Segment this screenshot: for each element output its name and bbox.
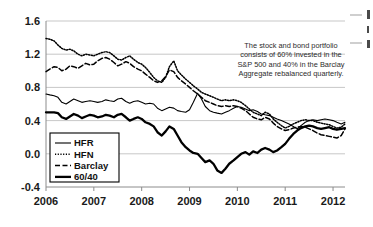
annotation-line-2: consists of 60% invested in the	[240, 50, 341, 59]
legend-label-Barclay: Barclay	[74, 160, 109, 171]
annotation-line-4: Aggregate rebalanced quarterly.	[238, 69, 343, 78]
annotation-line-1: The stock and bond portfolio	[244, 41, 337, 50]
x-tick-label-2009: 2009	[177, 195, 201, 207]
x-tick-label-2011: 2011	[273, 195, 297, 207]
x-tick-label-2008: 2008	[129, 195, 153, 207]
annotation-line-3: S&P 500 and 40% in the Barclay	[237, 60, 344, 69]
line-chart-figure: -0.40.00.40.81.21.6200620072008200920102…	[0, 0, 350, 227]
y-tick-label-1.6: 1.6	[25, 15, 40, 27]
edge-text-fragment-1	[367, 10, 370, 19]
edge-text-fragment-2	[367, 26, 369, 33]
y-tick-label--0.4: -0.4	[21, 181, 41, 193]
x-tick-label-2006: 2006	[34, 195, 58, 207]
y-tick-label-0.8: 0.8	[25, 81, 40, 93]
x-tick-label-2012: 2012	[321, 195, 345, 207]
page-root: -0.40.00.40.81.21.6200620072008200920102…	[0, 0, 373, 227]
page-edge-artifacts	[350, 0, 373, 227]
legend-label-HFR: HFR	[74, 137, 94, 148]
edge-text-fragment-3	[367, 40, 370, 48]
x-tick-label-2007: 2007	[82, 195, 106, 207]
edge-rule-top	[350, 14, 362, 16]
chart-canvas: -0.40.00.40.81.21.6200620072008200920102…	[0, 0, 350, 227]
edge-rule-mid	[350, 42, 362, 44]
x-tick-label-2010: 2010	[225, 195, 249, 207]
y-tick-label-0.4: 0.4	[25, 115, 41, 127]
series-line-HFR	[46, 93, 345, 129]
y-tick-label-1.2: 1.2	[25, 48, 40, 60]
y-tick-label-0.0: 0.0	[25, 148, 40, 160]
legend-label-HFN: HFN	[74, 149, 94, 160]
legend-label-60-40: 60/40	[74, 171, 98, 182]
